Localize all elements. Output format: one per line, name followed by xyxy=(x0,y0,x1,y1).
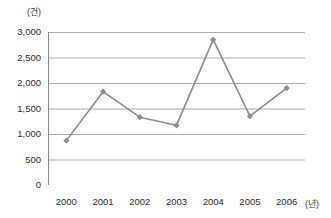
plot-area xyxy=(48,32,305,185)
data-point-2004 xyxy=(210,37,216,43)
y-tick-label-2000: 2,000 xyxy=(1,77,41,88)
y-tick-label-1500: 1,500 xyxy=(1,103,41,114)
y-tick-label-3000: 3,000 xyxy=(1,26,41,37)
line-chart: (건) (년) 05001,0001,5002,0002,5003,000 20… xyxy=(0,0,331,218)
y-tick-label-2500: 2,500 xyxy=(1,52,41,63)
x-tick-label-2005: 2005 xyxy=(230,196,270,207)
x-tick-label-2006: 2006 xyxy=(267,196,307,207)
data-point-2003 xyxy=(173,122,179,128)
x-axis-unit-label: (년) xyxy=(305,197,319,210)
y-tick-label-0: 0 xyxy=(1,179,41,190)
y-tick-label-500: 500 xyxy=(1,154,41,165)
x-tick-label-2000: 2000 xyxy=(46,196,86,207)
plot-canvas xyxy=(48,32,305,185)
y-axis-unit-label: (건) xyxy=(27,5,41,18)
x-tick-label-2003: 2003 xyxy=(157,196,197,207)
x-tick-label-2004: 2004 xyxy=(193,196,233,207)
x-tick-label-2002: 2002 xyxy=(120,196,160,207)
x-tick-label-2001: 2001 xyxy=(83,196,123,207)
y-tick-label-1000: 1,000 xyxy=(1,128,41,139)
